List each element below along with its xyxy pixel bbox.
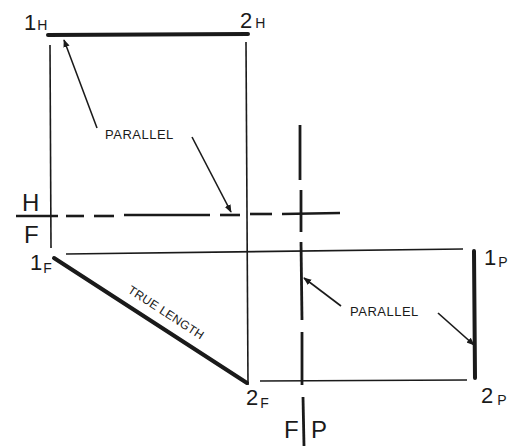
line-1f-2f-true-length [54, 258, 247, 383]
label-2p: 2P [481, 383, 507, 408]
annotation-parallel-top: PARALLEL [105, 127, 174, 142]
arrow-parallel-to-fp [304, 278, 341, 306]
annotation-parallel-right: PARALLEL [350, 304, 419, 319]
label-1f: 1F [30, 250, 52, 276]
projector-2f-2p [260, 380, 467, 381]
arrow-parallel-to-1h2h [64, 40, 97, 128]
fold-line-hf [16, 213, 340, 216]
label-2h: 2H [240, 8, 265, 33]
label-1h: 1H [24, 10, 47, 35]
line-1p-2p [474, 251, 475, 378]
orthographic-projection-diagram: 1H 2H 1F 2F 1P 2P H F F P PARALLEL PARAL… [0, 0, 522, 446]
fold-label-p-right: P [311, 416, 327, 443]
projector-point-1 [50, 45, 51, 248]
label-1p: 1P [484, 245, 508, 270]
fold-label-f-left: F [284, 416, 299, 443]
arrow-parallel-to-hf [192, 137, 231, 212]
arrow-parallel-to-1p2p [438, 313, 474, 345]
projector-1f-1p [66, 249, 463, 254]
projector-point-2 [246, 42, 248, 385]
fold-line-fp [300, 125, 304, 446]
line-1h-2h [48, 34, 248, 35]
fold-label-f-top: F [24, 221, 39, 248]
label-2f: 2F [246, 385, 269, 411]
fold-label-h: H [22, 189, 39, 216]
